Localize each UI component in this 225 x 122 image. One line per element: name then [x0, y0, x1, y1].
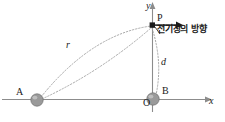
- field-label-leader: [155, 27, 160, 34]
- distance-curves: [41, 26, 159, 99]
- distance-chord-r: [42, 28, 151, 99]
- field-direction-arrow: [155, 22, 183, 29]
- sphere-a: [31, 94, 43, 106]
- sphere-b: [147, 93, 159, 105]
- physics-diagram: y x P A B O r d 전기장의 방향: [0, 0, 225, 122]
- distance-curve-r: [41, 26, 151, 97]
- x-axis-arrowhead: [205, 97, 212, 103]
- point-p-marker: [150, 22, 155, 27]
- y-axis-arrowhead: [150, 2, 156, 9]
- diagram-canvas: [0, 0, 225, 122]
